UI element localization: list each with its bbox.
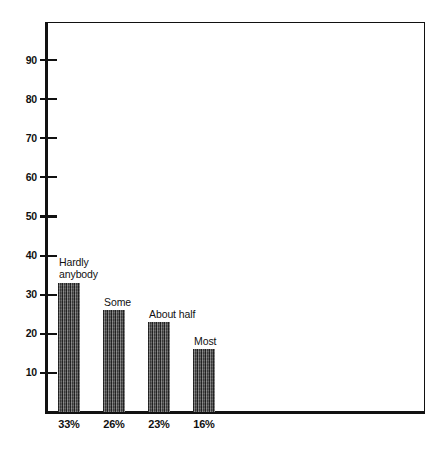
bar-percent-label: 16% xyxy=(182,419,226,430)
y-axis-tick-label: 80 xyxy=(11,94,37,105)
bar-category-label: Some xyxy=(104,296,131,309)
bar-percent-label: 33% xyxy=(47,419,91,430)
y-axis-tick-label: 50 xyxy=(11,211,37,222)
bar-category-label: Hardly anybody xyxy=(59,256,98,281)
bar-percent-label: 23% xyxy=(137,419,181,430)
x-axis-line xyxy=(45,411,425,414)
bar xyxy=(103,310,125,412)
y-axis-tick-mark xyxy=(40,59,57,61)
bar-category-label: About half xyxy=(149,308,195,321)
bar xyxy=(148,322,170,412)
bar xyxy=(58,283,80,412)
bar-category-label: Most xyxy=(194,335,216,348)
y-axis-tick-mark xyxy=(40,294,57,296)
y-axis-tick-mark xyxy=(40,255,57,257)
y-axis-tick-mark xyxy=(40,176,57,178)
y-axis-tick-mark xyxy=(40,333,57,335)
y-axis-tick-label: 10 xyxy=(11,367,37,378)
y-axis-tick-mark xyxy=(40,98,57,100)
y-axis-tick-label: 20 xyxy=(11,328,37,339)
y-axis-tick-mark xyxy=(40,137,57,139)
bar-percent-label: 26% xyxy=(92,419,136,430)
y-axis-tick-label: 40 xyxy=(11,250,37,261)
y-axis-tick-label: 30 xyxy=(11,289,37,300)
y-axis-tick-mark xyxy=(40,215,57,217)
bar-chart: 908070605040302010 Hardly anybodySomeAbo… xyxy=(0,0,438,452)
y-axis-tick-label: 60 xyxy=(11,172,37,183)
bar xyxy=(193,349,215,412)
y-axis-tick-mark xyxy=(40,372,57,374)
y-axis-tick-label: 70 xyxy=(11,133,37,144)
y-axis-tick-label: 90 xyxy=(11,55,37,66)
